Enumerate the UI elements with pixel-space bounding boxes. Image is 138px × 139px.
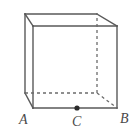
vertex-label-c: C [72,115,81,129]
edge-bottom-left-receding [25,93,33,108]
vertex-label-a: A [19,113,28,127]
edge-top-right-receding [97,14,117,26]
edge-hidden-bottom-right-receding [97,93,117,108]
vertex-label-b: B [120,112,129,126]
point-c-marker [74,105,79,110]
cube-figure: A C B [0,0,138,139]
edge-top-left-receding [25,14,33,26]
